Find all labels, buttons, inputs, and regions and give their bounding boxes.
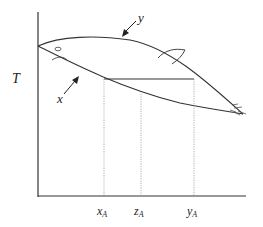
tick-zA: zA — [133, 204, 144, 219]
fish-gill-icon — [52, 57, 68, 61]
tick-xA: xA — [96, 204, 107, 219]
tick-yA: yA — [186, 204, 197, 219]
phase-diagram: T y x xA zA yA — [0, 0, 263, 227]
vapor-curve — [38, 37, 243, 114]
arrow-y-icon — [122, 21, 136, 37]
arrow-x-icon — [64, 76, 79, 94]
vapor-label: y — [136, 10, 144, 25]
y-axis-label: T — [12, 71, 21, 86]
liquid-curve — [38, 46, 243, 114]
liquid-label: x — [56, 91, 63, 106]
fish-eye-icon — [55, 47, 61, 51]
dotted-guides — [104, 79, 194, 196]
